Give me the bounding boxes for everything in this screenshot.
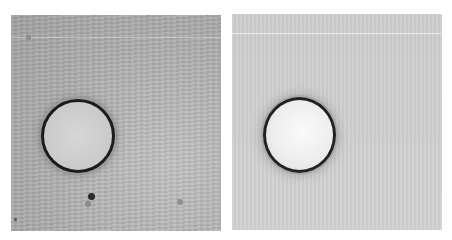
micrograph-left-panel <box>11 15 221 231</box>
micrograph-right-panel <box>232 14 442 230</box>
scan-line-artifact <box>11 37 221 38</box>
droplet-right <box>263 97 336 173</box>
faint-particle <box>85 201 91 207</box>
droplet-left <box>41 99 115 173</box>
faint-particle <box>26 35 31 40</box>
scan-line-artifact <box>232 33 442 34</box>
faint-particle <box>177 199 183 205</box>
tiny-particle <box>14 218 17 221</box>
dark-particle <box>88 193 95 200</box>
